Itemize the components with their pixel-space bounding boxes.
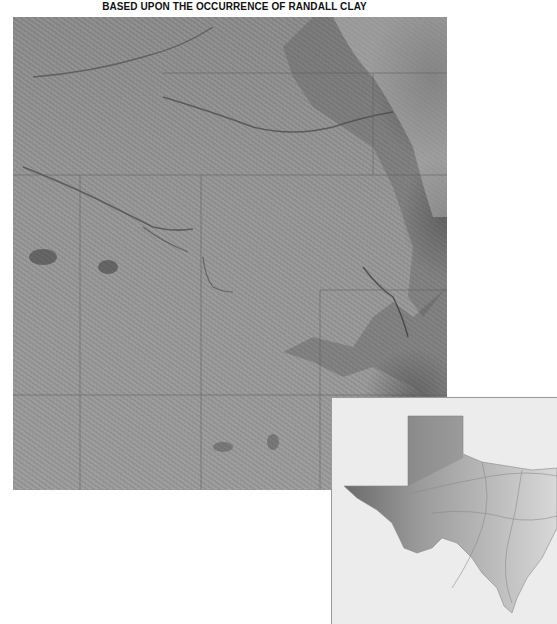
texas-inset-map [331,397,557,624]
texas-outline [332,398,557,624]
map-title: BASED UPON THE OCCURRENCE OF RANDALL CLA… [0,1,469,12]
